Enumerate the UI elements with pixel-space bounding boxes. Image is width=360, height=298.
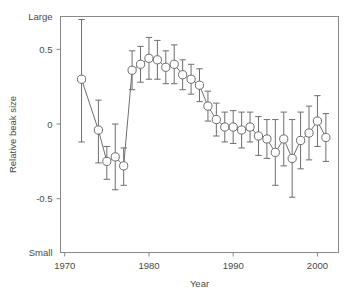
- data-point-marker: [179, 71, 187, 79]
- data-point-marker: [254, 132, 262, 140]
- data-point-marker: [271, 148, 279, 156]
- data-line: [82, 58, 326, 166]
- data-point-marker: [221, 123, 229, 131]
- data-point-marker: [238, 126, 246, 134]
- data-point-marker: [246, 123, 254, 131]
- data-point-marker: [162, 63, 170, 71]
- y-axis-tick-label: Small: [29, 247, 53, 258]
- data-point-marker: [136, 60, 144, 68]
- x-axis-tick-label: 1980: [138, 260, 159, 271]
- data-point-marker: [77, 75, 85, 83]
- data-point-marker: [280, 135, 288, 143]
- y-axis-tick-label: 0: [47, 119, 52, 130]
- data-point-marker: [145, 54, 153, 62]
- data-point-marker: [195, 81, 203, 89]
- data-point-marker: [103, 157, 111, 165]
- y-axis-title: Relative beak size: [7, 96, 18, 173]
- x-axis-tick-label: 1990: [223, 260, 244, 271]
- data-point-marker: [229, 123, 237, 131]
- data-point-marker: [296, 136, 304, 144]
- y-axis-tick-label: -0.5: [36, 193, 52, 204]
- relative-beak-size-scatter-chart: Large0.50-0.5Small1970198019902000YearRe…: [0, 0, 360, 298]
- data-point-marker: [288, 154, 296, 162]
- plot-frame: [61, 17, 339, 253]
- data-point-marker: [305, 129, 313, 137]
- x-axis-tick-label: 2000: [307, 260, 328, 271]
- data-point-marker: [94, 126, 102, 134]
- data-point-marker: [170, 60, 178, 68]
- data-point-marker: [204, 102, 212, 110]
- x-axis-tick-label: 1970: [54, 260, 75, 271]
- data-point-marker: [212, 115, 220, 123]
- x-axis-title: Year: [190, 278, 209, 289]
- data-point-marker: [187, 75, 195, 83]
- data-point-marker: [313, 117, 321, 125]
- data-point-marker: [111, 153, 119, 161]
- data-point-marker: [322, 133, 330, 141]
- data-point-marker: [128, 66, 136, 74]
- data-point-marker: [153, 56, 161, 64]
- chart-container: Large0.50-0.5Small1970198019902000YearRe…: [0, 0, 360, 298]
- y-axis-tick-label: 0.5: [39, 44, 52, 55]
- data-point-marker: [263, 135, 271, 143]
- data-point-marker: [120, 162, 128, 170]
- y-axis-tick-label: Large: [28, 11, 52, 22]
